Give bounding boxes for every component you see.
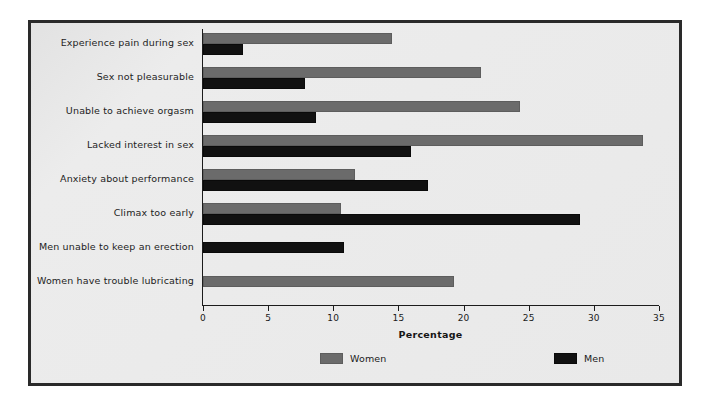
category-label: Anxiety about performance bbox=[31, 173, 194, 184]
category-row: Women have trouble lubricating bbox=[31, 271, 679, 305]
category-row: Experience pain during sex bbox=[31, 33, 679, 67]
bar-men bbox=[203, 180, 428, 191]
category-row: Climax too early bbox=[31, 203, 679, 237]
x-tick-label: 35 bbox=[653, 313, 665, 323]
bar-women bbox=[203, 33, 392, 44]
category-label: Lacked interest in sex bbox=[31, 139, 194, 150]
category-row: Lacked interest in sex bbox=[31, 135, 679, 169]
bar-women bbox=[203, 203, 341, 214]
x-tick bbox=[659, 306, 660, 311]
bar-women bbox=[203, 135, 643, 146]
x-tick bbox=[398, 306, 399, 311]
category-label: Sex not pleasurable bbox=[31, 71, 194, 82]
x-axis-label: Percentage bbox=[202, 329, 659, 340]
bar-men bbox=[203, 214, 580, 225]
category-label: Unable to achieve orgasm bbox=[31, 105, 194, 116]
bar-men bbox=[203, 146, 411, 157]
bar-women bbox=[203, 67, 481, 78]
category-row: Unable to achieve orgasm bbox=[31, 101, 679, 135]
x-axis-line bbox=[202, 305, 659, 306]
x-tick-label: 10 bbox=[327, 313, 339, 323]
chart-legend: WomenMen bbox=[202, 353, 659, 371]
category-label: Men unable to keep an erection bbox=[31, 241, 194, 252]
category-row: Anxiety about performance bbox=[31, 169, 679, 203]
category-label: Experience pain during sex bbox=[31, 37, 194, 48]
bar-women bbox=[203, 276, 454, 287]
bar-men bbox=[203, 242, 344, 253]
x-tick bbox=[333, 306, 334, 311]
category-label: Climax too early bbox=[31, 207, 194, 218]
category-row: Sex not pleasurable bbox=[31, 67, 679, 101]
bar-men bbox=[203, 44, 243, 55]
plot-area: Experience pain during sexSex not pleasu… bbox=[31, 23, 679, 383]
category-row: Men unable to keep an erection bbox=[31, 237, 679, 271]
men-swatch bbox=[554, 353, 577, 364]
legend-item-women[interactable]: Women bbox=[320, 353, 387, 364]
x-tick-label: 0 bbox=[200, 313, 206, 323]
x-tick-label: 25 bbox=[523, 313, 535, 323]
y-axis-line bbox=[202, 29, 203, 306]
x-tick-label: 20 bbox=[458, 313, 470, 323]
bar-women bbox=[203, 169, 355, 180]
x-tick bbox=[268, 306, 269, 311]
women-swatch bbox=[320, 353, 343, 364]
bar-women bbox=[203, 101, 520, 112]
chart-screenshot: Experience pain during sexSex not pleasu… bbox=[0, 0, 707, 407]
category-label: Women have trouble lubricating bbox=[31, 275, 194, 286]
bar-men bbox=[203, 112, 316, 123]
legend-label: Men bbox=[584, 353, 605, 364]
chart-frame: Experience pain during sexSex not pleasu… bbox=[28, 20, 682, 386]
legend-label: Women bbox=[350, 353, 387, 364]
x-tick-label: 5 bbox=[265, 313, 271, 323]
x-tick bbox=[529, 306, 530, 311]
x-tick bbox=[594, 306, 595, 311]
bar-men bbox=[203, 78, 305, 89]
x-tick bbox=[464, 306, 465, 311]
x-tick bbox=[203, 306, 204, 311]
legend-item-men[interactable]: Men bbox=[554, 353, 605, 364]
x-tick-label: 15 bbox=[392, 313, 404, 323]
x-tick-label: 30 bbox=[588, 313, 600, 323]
